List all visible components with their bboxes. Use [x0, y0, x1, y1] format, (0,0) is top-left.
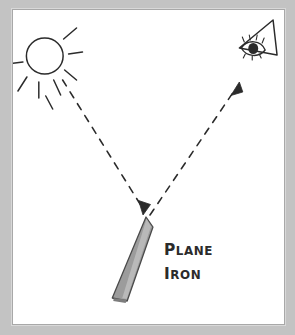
plane-label: PLANE — [164, 241, 213, 259]
iron-label-rest: RON — [170, 268, 201, 282]
sun-disc — [26, 38, 63, 74]
figure-container: PLANE IRON — [0, 0, 295, 335]
plane-iron-highlight — [122, 219, 151, 299]
sun-icon — [13, 28, 82, 109]
sun-ray-1 — [64, 28, 77, 39]
eye-cone — [239, 20, 277, 55]
plane-label-rest: LANE — [176, 244, 213, 258]
sun-ray-3 — [65, 70, 77, 80]
eye-pupil — [248, 43, 258, 54]
iron-label: IRON — [164, 265, 201, 283]
plane-iron — [112, 217, 153, 303]
incident-ray — [63, 80, 151, 215]
incident-ray-line — [63, 80, 140, 204]
sun-ray-4 — [54, 80, 61, 95]
figure-drawing: PLANE IRON — [13, 10, 284, 324]
sun-ray-7 — [13, 62, 23, 64]
figure-paper: PLANE IRON — [12, 9, 285, 325]
sun-rays — [13, 28, 82, 109]
reflected-ray — [150, 82, 243, 215]
sun-ray-8 — [46, 96, 53, 109]
sun-ray-2 — [69, 52, 83, 54]
eye-icon — [239, 20, 277, 60]
plane-label-initial: P — [164, 241, 176, 259]
reflected-ray-line — [150, 92, 233, 215]
reflected-ray-arrowhead — [231, 82, 243, 96]
incident-ray-arrowhead — [139, 201, 151, 216]
sun-ray-6 — [18, 77, 27, 91]
